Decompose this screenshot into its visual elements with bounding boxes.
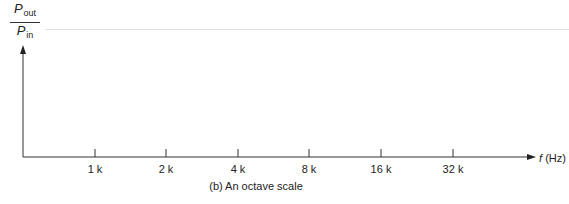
tick-label: 4 k xyxy=(231,163,246,175)
tick-label: 2 k xyxy=(159,163,174,175)
tick-label: 32 k xyxy=(443,163,464,175)
tick-label: 8 k xyxy=(302,163,317,175)
tick-marks xyxy=(95,149,453,157)
x-axis-arrow-icon xyxy=(527,154,536,160)
tick-label: 1 k xyxy=(88,163,103,175)
tick-label: 16 k xyxy=(371,163,392,175)
x-axis-label: f (Hz) xyxy=(539,152,566,164)
axes xyxy=(0,0,569,204)
y-axis-arrow-icon xyxy=(20,45,26,54)
figure-caption: (b) An octave scale xyxy=(209,180,303,192)
